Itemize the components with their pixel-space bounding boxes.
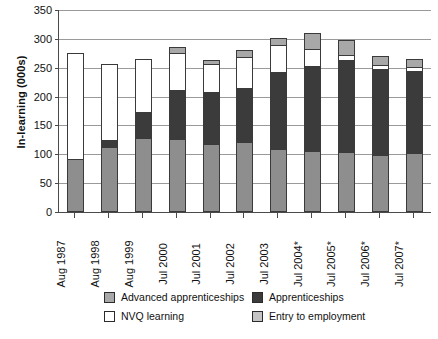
bar-jul2001[interactable] — [203, 60, 220, 212]
bar-segment — [305, 152, 320, 211]
bar-jul2003[interactable] — [270, 38, 287, 212]
bar-segment — [237, 89, 252, 143]
bar-aug1998[interactable] — [101, 64, 118, 212]
bar-segment — [271, 150, 286, 211]
bar-segment — [204, 145, 219, 211]
bar-segment — [271, 46, 286, 73]
x-label-slot: Aug 1987 — [66, 220, 83, 284]
legend-label: Advanced apprenticeships — [121, 291, 244, 303]
bar-segment — [136, 113, 151, 139]
bar-aug1987[interactable] — [67, 53, 84, 212]
bar-segment — [373, 70, 388, 156]
bar-segment — [407, 60, 422, 67]
bar-jul2006[interactable] — [372, 56, 389, 212]
x-tick-mark — [235, 212, 252, 218]
bar-segment — [68, 160, 83, 211]
y-tick-label: 250 — [34, 62, 52, 74]
y-tick-label: 200 — [34, 91, 52, 103]
y-axis-title: In-learning (000s) — [15, 37, 27, 167]
x-label-slot: Aug 1998 — [100, 220, 117, 284]
x-tick-mark — [66, 212, 83, 218]
bar-jul2004[interactable] — [304, 33, 321, 212]
legend-swatch-icon — [252, 292, 263, 303]
x-tick-mark — [303, 212, 320, 218]
bar-segment — [339, 153, 354, 211]
x-label-slot: Jul 2005* — [337, 220, 354, 284]
bar-segment — [339, 61, 354, 153]
legend-swatch-icon — [104, 311, 115, 322]
bar-segment — [102, 65, 117, 141]
bar-segment — [237, 58, 252, 89]
bar-jul2002[interactable] — [236, 50, 253, 212]
y-tick-label: 150 — [34, 119, 52, 131]
bar-segment — [237, 51, 252, 58]
bar-segment — [271, 39, 286, 46]
legend-label: NVQ learning — [121, 310, 184, 322]
x-tick-mark — [134, 212, 151, 218]
x-label-slot: Jul 2000 — [168, 220, 185, 284]
bar-segment — [373, 57, 388, 66]
y-tick-label: 300 — [34, 33, 52, 45]
x-axis-labels: Aug 1987Aug 1998Aug 1999Jul 2000Jul 2001… — [58, 220, 430, 284]
x-axis-ticks — [58, 212, 430, 218]
bar-segment — [136, 139, 151, 211]
legend-item[interactable]: NVQ learning — [104, 310, 252, 322]
bar-aug1999[interactable] — [135, 59, 152, 212]
x-label-slot: Jul 2003 — [269, 220, 286, 284]
bar-segment — [102, 141, 117, 148]
x-tick-mark — [202, 212, 219, 218]
bar-chart: In-learning (000s) 050100150200250300350… — [0, 0, 438, 339]
x-label-slot: Jul 2004* — [303, 220, 320, 284]
bar-jul2005[interactable] — [338, 40, 355, 212]
bar-segment — [407, 154, 422, 211]
legend-label: Entry to employment — [269, 310, 365, 322]
x-label-slot: Jul 2002 — [235, 220, 252, 284]
x-tick-mark — [337, 212, 354, 218]
bar-segment — [305, 34, 320, 51]
plot-area: 050100150200250300350 — [58, 10, 431, 213]
legend-item[interactable]: Entry to employment — [252, 310, 404, 322]
x-label-slot: Jul 2001 — [202, 220, 219, 284]
x-label-slot: Jul 2007* — [405, 220, 422, 284]
x-tick-mark — [371, 212, 388, 218]
bar-segment — [305, 50, 320, 67]
x-label-slot: Aug 1999 — [134, 220, 151, 284]
bar-segment — [136, 60, 151, 113]
bar-jul2007[interactable] — [406, 59, 423, 212]
legend-swatch-icon — [104, 292, 115, 303]
x-tick-label: Jul 2007* — [393, 241, 433, 287]
bar-segment — [407, 72, 422, 155]
legend-swatch-icon — [252, 311, 263, 322]
y-tick-label: 100 — [34, 148, 52, 160]
bar-segment — [204, 65, 219, 94]
x-tick-mark — [100, 212, 117, 218]
legend-item[interactable]: Advanced apprenticeships — [104, 291, 252, 303]
bar-segment — [170, 140, 185, 211]
y-tick-label: 50 — [40, 177, 52, 189]
bar-segment — [170, 91, 185, 140]
bar-segment — [305, 67, 320, 152]
bar-segment — [373, 156, 388, 211]
bar-segment — [339, 41, 354, 56]
bar-segment — [170, 48, 185, 55]
x-label-slot: Jul 2006* — [371, 220, 388, 284]
legend-item[interactable]: Apprenticeships — [252, 291, 404, 303]
bar-segment — [204, 93, 219, 144]
chart-legend: Advanced apprenticeshipsApprenticeshipsN… — [104, 291, 404, 322]
bar-group — [59, 10, 431, 212]
bar-segment — [237, 143, 252, 211]
bar-segment — [68, 54, 83, 160]
bar-segment — [170, 54, 185, 90]
bar-jul2000[interactable] — [169, 47, 186, 212]
x-tick-mark — [269, 212, 286, 218]
bar-segment — [102, 148, 117, 211]
x-tick-mark — [405, 212, 422, 218]
x-tick-mark — [168, 212, 185, 218]
bar-segment — [271, 73, 286, 151]
y-tick-label: 0 — [46, 206, 52, 218]
y-tick-label: 350 — [34, 4, 52, 16]
legend-label: Apprenticeships — [269, 291, 344, 303]
